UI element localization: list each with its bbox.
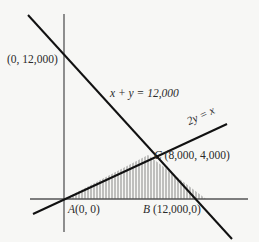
- point-c-coords: (8,000, 4,000): [165, 149, 230, 161]
- point-c-letter: C: [154, 149, 162, 161]
- feasible-region: [64, 155, 206, 199]
- point-c-label: C (8,000, 4,000): [154, 150, 230, 162]
- point-a-label: A(0, 0): [68, 204, 100, 216]
- line-x-plus-y: [28, 15, 232, 239]
- y-intercept-label: (0, 12,000): [7, 54, 58, 66]
- point-a-letter: A: [68, 203, 75, 215]
- equation-label-x-plus-y: x + y = 12,000: [110, 88, 179, 100]
- point-b-coords: (12,000,0): [153, 203, 201, 215]
- point-b-letter: B: [143, 203, 150, 215]
- point-b-label: B (12,000,0): [143, 204, 201, 216]
- point-a-coords: (0, 0): [75, 203, 100, 215]
- diagram-canvas: [0, 0, 259, 242]
